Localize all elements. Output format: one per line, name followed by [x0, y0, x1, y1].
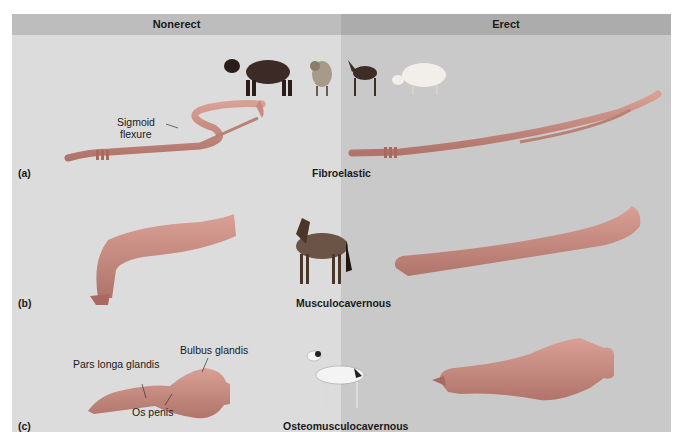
annotation-sigmoid: Sigmoid [117, 116, 155, 128]
illustrations [0, 0, 680, 446]
fibroelastic-erect-organ [352, 94, 658, 158]
annotation-bulbus-glandis: Bulbus glandis [180, 344, 248, 356]
annotation-pars-longa-glandis: Pars longa glandis [73, 358, 159, 370]
bull-icon [224, 59, 292, 96]
annotation-flexure: flexure [120, 128, 152, 140]
musculocavernous-nonerect-organ [90, 214, 236, 305]
horse-icon [296, 218, 352, 284]
type-osteomusculocavernous: Osteomusculocavernous [283, 420, 408, 432]
musculocavernous-erect-organ [395, 206, 640, 276]
row-letter-c: (c) [18, 420, 31, 432]
type-musculocavernous: Musculocavernous [296, 297, 391, 309]
dog-icon [307, 351, 364, 408]
pig-icon [392, 63, 446, 95]
type-fibroelastic: Fibroelastic [312, 167, 371, 179]
osteomusculocavernous-erect-organ [432, 338, 614, 400]
fibroelastic-nonerect-organ [68, 100, 264, 160]
goat-icon [348, 60, 377, 96]
row-letter-a: (a) [18, 167, 31, 179]
ram-icon [310, 61, 332, 96]
row-letter-b: (b) [18, 297, 31, 309]
annotation-os-penis: Os penis [132, 406, 173, 418]
